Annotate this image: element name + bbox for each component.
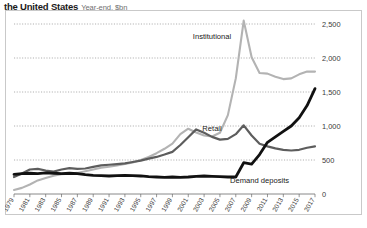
x-axis-tick-label: 1979 — [5, 196, 15, 212]
series-line-demand-deposits — [14, 89, 315, 178]
y-axis-tick-label: 2,000 — [322, 54, 341, 63]
x-axis-tick-label: 2003 — [192, 196, 206, 212]
x-axis-tick-label: 1987 — [65, 196, 79, 212]
y-axis-tick-label: 0 — [322, 190, 326, 199]
y-axis-tick-label: 1,000 — [322, 122, 341, 131]
x-axis-tick-label: 1991 — [97, 196, 111, 212]
x-axis-tick-label: 2011 — [255, 196, 268, 212]
x-axis-tick-label: 2001 — [176, 196, 190, 212]
x-axis-tick-label: 1981 — [17, 196, 31, 212]
x-axis-tick-label: 2015 — [287, 196, 301, 212]
x-axis-tick-label: 1999 — [160, 196, 174, 212]
series-line-institutional — [14, 21, 315, 190]
plot-area: 05001,0001,5002,0002,5001979198119831985… — [5, 10, 362, 215]
series-label-retail: Retail — [202, 124, 222, 133]
x-axis-tick-label: 2005 — [207, 196, 221, 212]
x-axis-tick-label: 1993 — [112, 196, 126, 212]
x-axis-tick-label: 1989 — [81, 196, 95, 212]
x-axis-tick-label: 1995 — [128, 196, 142, 212]
x-axis-tick-label: 2009 — [239, 196, 253, 212]
x-axis-tick-label: 1985 — [49, 196, 63, 212]
y-axis-tick-label: 2,500 — [322, 20, 341, 29]
y-axis-tick-label: 500 — [322, 156, 334, 165]
y-axis-tick-label: 1,500 — [322, 88, 341, 97]
x-axis-tick-label: 2013 — [271, 196, 285, 212]
x-axis-tick-label: 1983 — [33, 196, 47, 212]
x-axis-tick-label: 1997 — [144, 196, 158, 212]
series-label-institutional: Institutional — [193, 32, 232, 41]
x-axis-tick-label: 2017 — [302, 196, 316, 212]
series-label-demand-deposits: Demand deposits — [230, 176, 289, 185]
series-line-retail — [14, 125, 315, 177]
chart-screenshot: the United StatesYear-end, $bn 05001,000… — [0, 0, 367, 228]
x-axis-tick-label: 2007 — [223, 196, 237, 212]
line-chart: 05001,0001,5002,0002,5001979198119831985… — [5, 10, 362, 215]
